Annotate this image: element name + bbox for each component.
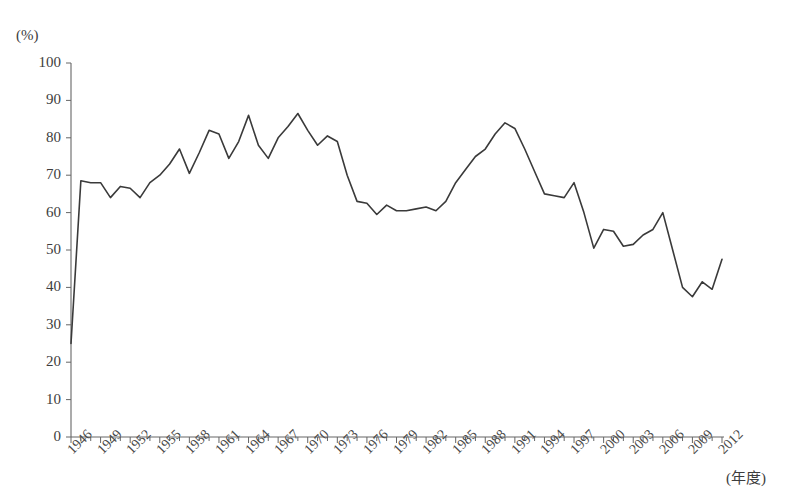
y-axis-tick-label: 0 — [17, 429, 61, 444]
data-series-line — [71, 113, 722, 343]
y-axis-tick-label: 40 — [17, 279, 61, 294]
y-axis-tick-label: 80 — [17, 130, 61, 145]
y-axis-tick-label: 50 — [17, 242, 61, 257]
line-chart-plot — [0, 0, 790, 499]
axis-layer — [71, 63, 724, 437]
chart-container: (%) (年度) 0102030405060708090100 19461949… — [0, 0, 790, 499]
y-axis-tick-label: 30 — [17, 317, 61, 332]
y-axis-tick-label: 10 — [17, 392, 61, 407]
y-axis-tick-label: 20 — [17, 354, 61, 369]
tick-marks-layer — [66, 63, 722, 443]
y-axis-tick-label: 70 — [17, 167, 61, 182]
y-axis-tick-label: 60 — [17, 205, 61, 220]
y-axis-tick-label: 100 — [17, 55, 61, 70]
y-axis-tick-label: 90 — [17, 92, 61, 107]
